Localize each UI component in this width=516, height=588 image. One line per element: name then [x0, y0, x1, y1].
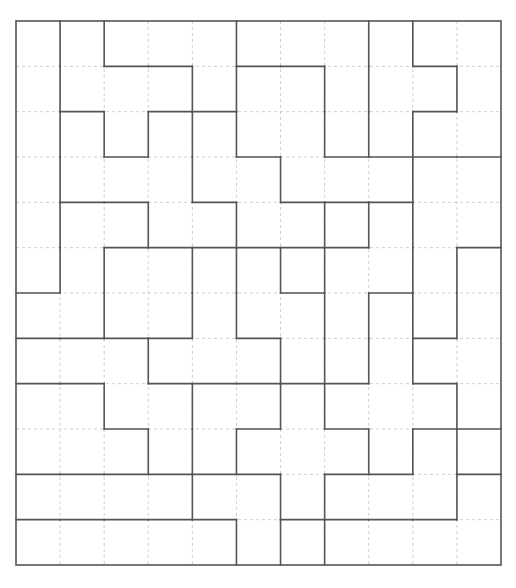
grid-cell[interactable]	[281, 66, 325, 111]
grid-cell[interactable]	[369, 66, 413, 111]
grid-cell[interactable]	[148, 21, 192, 66]
grid-cell[interactable]	[16, 21, 60, 66]
grid-cell[interactable]	[192, 21, 236, 66]
grid-cell[interactable]	[104, 112, 148, 157]
grid-cell[interactable]	[192, 202, 236, 247]
grid-cell[interactable]	[104, 474, 148, 519]
grid-cell[interactable]	[148, 520, 192, 565]
grid-cell[interactable]	[325, 202, 369, 247]
grid-cell[interactable]	[192, 338, 236, 383]
grid-cell[interactable]	[325, 429, 369, 474]
grid-cell[interactable]	[325, 338, 369, 383]
grid-cell[interactable]	[369, 520, 413, 565]
grid-cell[interactable]	[413, 66, 457, 111]
grid-cell[interactable]	[16, 157, 60, 202]
grid-cell[interactable]	[16, 248, 60, 293]
grid-cell[interactable]	[148, 293, 192, 338]
grid-cell[interactable]	[104, 248, 148, 293]
grid-cell[interactable]	[369, 293, 413, 338]
grid-cell[interactable]	[413, 384, 457, 429]
grid-cell[interactable]	[148, 112, 192, 157]
grid-cell[interactable]	[60, 202, 104, 247]
grid-cell[interactable]	[281, 474, 325, 519]
grid-cell[interactable]	[413, 248, 457, 293]
grid-cell[interactable]	[369, 202, 413, 247]
grid-cell[interactable]	[192, 429, 236, 474]
grid-cell[interactable]	[148, 202, 192, 247]
grid-cell[interactable]	[281, 293, 325, 338]
grid-cell[interactable]	[16, 338, 60, 383]
grid-cell[interactable]	[325, 520, 369, 565]
grid-cell[interactable]	[457, 202, 501, 247]
grid-cell[interactable]	[369, 157, 413, 202]
grid-cell[interactable]	[60, 21, 104, 66]
grid-cell[interactable]	[148, 384, 192, 429]
grid-cell[interactable]	[104, 338, 148, 383]
grid-cell[interactable]	[413, 112, 457, 157]
grid-cell[interactable]	[148, 474, 192, 519]
grid-cell[interactable]	[104, 157, 148, 202]
grid-cell[interactable]	[236, 66, 280, 111]
grid-cell[interactable]	[457, 293, 501, 338]
grid-cell[interactable]	[16, 520, 60, 565]
grid-cell[interactable]	[457, 248, 501, 293]
grid-cell[interactable]	[236, 474, 280, 519]
grid-cell[interactable]	[148, 248, 192, 293]
grid-cell[interactable]	[192, 293, 236, 338]
grid-cell[interactable]	[148, 157, 192, 202]
grid-cell[interactable]	[60, 520, 104, 565]
grid-cell[interactable]	[148, 338, 192, 383]
grid-cell[interactable]	[325, 21, 369, 66]
grid-cell[interactable]	[104, 202, 148, 247]
grid-cell[interactable]	[16, 66, 60, 111]
grid-cell[interactable]	[16, 429, 60, 474]
grid-cell[interactable]	[281, 157, 325, 202]
grid-cell[interactable]	[413, 157, 457, 202]
grid-cell[interactable]	[236, 157, 280, 202]
grid-cell[interactable]	[413, 202, 457, 247]
grid-cell[interactable]	[192, 384, 236, 429]
grid-cell[interactable]	[236, 429, 280, 474]
grid-cell[interactable]	[369, 112, 413, 157]
grid-cell[interactable]	[281, 21, 325, 66]
grid-cell[interactable]	[192, 157, 236, 202]
grid-cell[interactable]	[60, 429, 104, 474]
grid-cell[interactable]	[60, 474, 104, 519]
grid-cell[interactable]	[369, 21, 413, 66]
grid-cell[interactable]	[16, 384, 60, 429]
grid-cell[interactable]	[236, 21, 280, 66]
grid-cell[interactable]	[281, 202, 325, 247]
grid-cell[interactable]	[192, 66, 236, 111]
grid-cell[interactable]	[369, 429, 413, 474]
grid-cell[interactable]	[60, 66, 104, 111]
grid-cell[interactable]	[236, 112, 280, 157]
grid-cell[interactable]	[325, 248, 369, 293]
grid-cell[interactable]	[192, 474, 236, 519]
grid-cell[interactable]	[16, 112, 60, 157]
grid-cell[interactable]	[236, 338, 280, 383]
grid-cell[interactable]	[325, 293, 369, 338]
grid-cell[interactable]	[281, 248, 325, 293]
grid-cell[interactable]	[104, 293, 148, 338]
grid-cell[interactable]	[104, 384, 148, 429]
grid-cell[interactable]	[236, 384, 280, 429]
grid-cell[interactable]	[457, 474, 501, 519]
grid-cell[interactable]	[236, 202, 280, 247]
grid-cell[interactable]	[325, 384, 369, 429]
grid-cell[interactable]	[457, 157, 501, 202]
grid-cell[interactable]	[369, 474, 413, 519]
grid-cell[interactable]	[236, 293, 280, 338]
grid-cell[interactable]	[16, 474, 60, 519]
grid-cell[interactable]	[369, 248, 413, 293]
grid-cell[interactable]	[369, 384, 413, 429]
grid-cell[interactable]	[457, 384, 501, 429]
grid-cell[interactable]	[325, 66, 369, 111]
grid-cell[interactable]	[60, 112, 104, 157]
grid-cell[interactable]	[369, 338, 413, 383]
grid-cell[interactable]	[60, 384, 104, 429]
grid-cell[interactable]	[413, 21, 457, 66]
grid-cell[interactable]	[60, 293, 104, 338]
grid-cell[interactable]	[236, 520, 280, 565]
grid-cell[interactable]	[148, 66, 192, 111]
grid-cell[interactable]	[60, 338, 104, 383]
